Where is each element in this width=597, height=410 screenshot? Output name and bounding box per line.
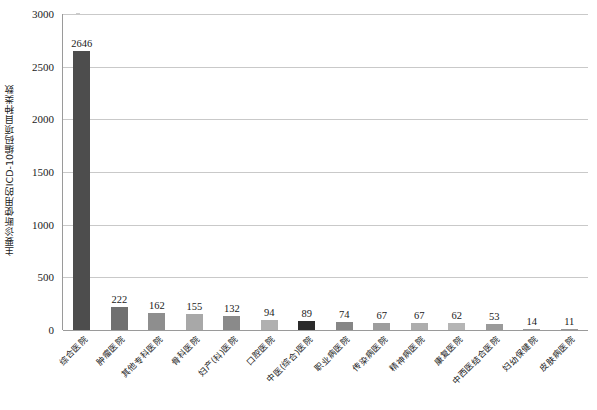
x-axis-tick-labels: 综合医院肿瘤医院其他专科医院骨科医院妇产(科)医院口腔医院中医(综合)医院职业病… [62,330,587,410]
bar-slot: 222 [101,14,139,330]
x-axis-label-slot: 精神病医院 [400,330,438,410]
y-axis-tick-labels: 300025002000150010005000 [18,0,58,340]
bar-slot: 89 [288,14,326,330]
bar-value-label: 74 [339,309,350,320]
bar[interactable]: 155 [186,314,203,330]
bar[interactable]: 89 [298,321,315,330]
y-axis-tick-label: 1000 [32,219,54,231]
y-axis-title-text: 主要诊断使用的ICD-10编码项目种类数 [3,84,17,256]
bar-slot: 162 [138,14,176,330]
bar-series: 2646222162155132948974676762531411 [63,14,588,330]
bar-value-label: 155 [186,301,202,312]
x-axis-tick-label: 综合医院 [55,333,89,367]
bar-value-label: 53 [489,311,500,322]
bar-slot: 67 [401,14,439,330]
x-axis-label-slot: 皮肤病医院 [550,330,588,410]
bar[interactable]: 2646 [73,51,90,330]
plot-area: 2646222162155132948974676762531411 [62,14,588,330]
y-axis-tick-label: 3000 [32,8,54,20]
bar-slot: 53 [476,14,514,330]
bar-value-label: 89 [302,308,313,319]
bar-slot: 11 [551,14,589,330]
bar-value-label: 62 [452,310,463,321]
bar-slot: 74 [326,14,364,330]
bar-value-label: 67 [414,310,425,321]
bar-chart: 主要诊断使用的ICD-10编码项目种类数 3000250020001500100… [0,0,597,410]
x-axis-label-slot: 其他专科医院 [137,330,175,410]
y-axis-tick-label: 500 [38,271,55,283]
bar-value-label: 132 [224,303,240,314]
bar-value-label: 11 [564,316,574,327]
bar-value-label: 222 [111,294,127,305]
y-axis-tick-label: 2500 [32,61,54,73]
bar-slot: 2646 [63,14,101,330]
bar-value-label: 14 [527,316,538,327]
bar[interactable]: 67 [411,323,428,330]
x-axis-label-slot: 综合医院 [62,330,100,410]
bar-value-label: 94 [264,307,275,318]
bar-slot: 94 [251,14,289,330]
bar-slot: 67 [363,14,401,330]
x-axis-label-slot: 妇产(科)医院 [212,330,250,410]
bar[interactable]: 132 [223,316,240,330]
bar[interactable]: 94 [261,320,278,330]
bar-slot: 155 [176,14,214,330]
y-axis-tick-label: 1500 [32,166,54,178]
bar-value-label: 2646 [71,38,92,49]
bar-slot: 132 [213,14,251,330]
y-axis-tick-label: 0 [49,324,55,336]
bar[interactable]: 74 [336,322,353,330]
bar[interactable]: 67 [373,323,390,330]
y-axis-title: 主要诊断使用的ICD-10编码项目种类数 [0,0,20,340]
bar-value-label: 67 [377,310,388,321]
bar[interactable]: 162 [148,313,165,330]
bar-slot: 62 [438,14,476,330]
bar-slot: 14 [513,14,551,330]
y-axis-tick-label: 2000 [32,113,54,125]
bar-value-label: 162 [149,300,165,311]
bar[interactable]: 222 [111,307,128,330]
